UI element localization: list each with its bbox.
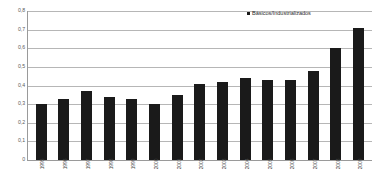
x-axis: 1995199619971998199920002001200220032004… bbox=[27, 162, 372, 184]
x-tick-slot: 2006 bbox=[285, 162, 296, 184]
x-tick-label: 2005 bbox=[268, 159, 273, 170]
bar bbox=[240, 78, 251, 160]
x-tick-slot: 1999 bbox=[126, 162, 137, 184]
y-tick-label: 0,1 bbox=[18, 139, 25, 144]
x-tick-slot: 2002 bbox=[194, 162, 205, 184]
x-tick-label: 1996 bbox=[63, 159, 68, 170]
y-tick-label: 0,8 bbox=[18, 8, 25, 13]
bar bbox=[36, 104, 47, 160]
x-tick-slot: 2000 bbox=[148, 162, 159, 184]
y-tick-label: 0,6 bbox=[18, 46, 25, 51]
x-tick-slot: 1997 bbox=[80, 162, 91, 184]
bar bbox=[194, 84, 205, 160]
x-tick-label: 2004 bbox=[245, 159, 250, 170]
bar bbox=[104, 97, 115, 160]
x-tick-slot: 1996 bbox=[58, 162, 69, 184]
legend: Básicos/Industrializados bbox=[247, 11, 311, 17]
bar bbox=[217, 82, 228, 160]
x-tick-label: 2009 bbox=[358, 159, 363, 170]
x-tick-label: 2003 bbox=[222, 159, 227, 170]
bar bbox=[262, 80, 273, 160]
x-tick-slot: 1995 bbox=[35, 162, 46, 184]
x-tick-slot: 2007 bbox=[307, 162, 318, 184]
plot-area bbox=[27, 11, 372, 161]
x-tick-label: 2006 bbox=[290, 159, 295, 170]
y-tick-label: 0,2 bbox=[18, 120, 25, 125]
y-tick-label: 0 bbox=[22, 157, 25, 162]
x-tick-slot: 2001 bbox=[171, 162, 182, 184]
bar bbox=[126, 99, 137, 160]
x-tick-label: 1997 bbox=[86, 159, 91, 170]
x-tick-label: 2001 bbox=[177, 159, 182, 170]
y-axis: 00,10,20,30,40,50,60,70,8 bbox=[0, 0, 28, 185]
bar bbox=[308, 71, 319, 160]
x-tick-slot: 2005 bbox=[262, 162, 273, 184]
x-tick-slot: 2003 bbox=[217, 162, 228, 184]
x-tick-slot: 2008 bbox=[330, 162, 341, 184]
y-tick-label: 0,3 bbox=[18, 102, 25, 107]
x-tick-label: 2002 bbox=[199, 159, 204, 170]
bar bbox=[285, 80, 296, 160]
bar bbox=[172, 95, 183, 160]
y-tick-label: 0,5 bbox=[18, 64, 25, 69]
bars-group bbox=[28, 11, 372, 160]
y-tick-label: 0,7 bbox=[18, 27, 25, 32]
bar bbox=[330, 48, 341, 160]
x-tick-label: 1995 bbox=[40, 159, 45, 170]
legend-label: Básicos/Industrializados bbox=[252, 11, 311, 17]
x-tick-label: 1999 bbox=[131, 159, 136, 170]
y-tick-label: 0,4 bbox=[18, 83, 25, 88]
x-tick-label: 1998 bbox=[109, 159, 114, 170]
bar bbox=[81, 91, 92, 160]
x-tick-slot: 1998 bbox=[103, 162, 114, 184]
x-tick-label: 2000 bbox=[154, 159, 159, 170]
x-tick-slot: 2004 bbox=[239, 162, 250, 184]
bar-chart: 00,10,20,30,40,50,60,70,8 19951996199719… bbox=[0, 0, 378, 185]
x-tick-slot: 2009 bbox=[353, 162, 364, 184]
legend-swatch-icon bbox=[247, 12, 250, 15]
x-tick-label: 2007 bbox=[313, 159, 318, 170]
bar bbox=[58, 99, 69, 160]
bar bbox=[149, 104, 160, 160]
x-tick-label: 2008 bbox=[336, 159, 341, 170]
bar bbox=[353, 28, 364, 160]
